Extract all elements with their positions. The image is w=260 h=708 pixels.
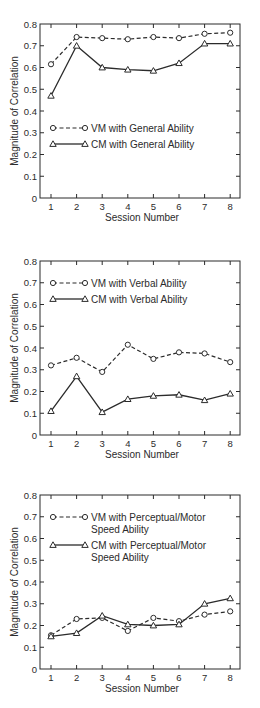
- y-tick-label: 0.1: [24, 642, 37, 653]
- legend-label: CM with General Ability: [91, 139, 194, 150]
- legend-entry: VM with General Ability: [50, 123, 193, 134]
- legend-label: Speed Ability: [91, 524, 149, 535]
- data-point: [227, 595, 233, 601]
- x-tick-label: 6: [176, 672, 181, 683]
- x-tick-label: 7: [202, 201, 207, 212]
- y-tick-label: 0.4: [24, 106, 37, 117]
- y-tick-label: 0.8: [24, 256, 37, 267]
- x-axis-label: Session Number: [105, 449, 180, 460]
- x-tick-label: 5: [151, 438, 156, 449]
- legend-marker: [82, 280, 87, 285]
- data-point: [48, 363, 53, 368]
- data-point: [202, 31, 207, 36]
- x-axis-label: Session Number: [105, 683, 180, 694]
- data-point: [227, 390, 233, 396]
- y-tick-label: 0.7: [24, 511, 37, 522]
- data-point: [99, 613, 105, 619]
- y-tick-label: 0.1: [24, 171, 37, 182]
- data-point: [228, 30, 233, 35]
- data-point: [100, 36, 105, 41]
- legend-marker: [82, 125, 87, 130]
- x-tick-label: 8: [228, 201, 233, 212]
- series-vm: [48, 342, 232, 374]
- data-point: [125, 342, 130, 347]
- data-point: [202, 612, 207, 617]
- y-tick-label: 0: [32, 664, 37, 675]
- data-point: [74, 355, 79, 360]
- x-tick-label: 1: [48, 438, 53, 449]
- x-tick-label: 8: [228, 438, 233, 449]
- y-tick-label: 0.1: [24, 408, 37, 419]
- legend-entry: CM with Perceptual/MotorSpeed Ability: [50, 540, 207, 563]
- series-cm: [48, 40, 234, 98]
- legend-label: CM with Verbal Ability: [91, 294, 187, 305]
- series-line: [51, 376, 230, 412]
- data-point: [202, 351, 207, 356]
- y-tick-label: 0.3: [24, 127, 37, 138]
- x-tick-label: 8: [228, 672, 233, 683]
- data-point: [48, 62, 53, 67]
- x-tick-label: 2: [74, 201, 79, 212]
- data-point: [73, 43, 79, 49]
- y-tick-label: 0: [32, 430, 37, 441]
- data-point: [228, 360, 233, 365]
- y-axis-label: Magnitude of Correlation: [9, 527, 20, 637]
- y-tick-label: 0.5: [24, 555, 37, 566]
- x-tick-label: 1: [48, 201, 53, 212]
- legend-label: VM with General Ability: [91, 123, 194, 134]
- y-tick-label: 0.5: [24, 321, 37, 332]
- y-tick-label: 0.3: [24, 364, 37, 375]
- legend-marker: [50, 125, 55, 130]
- x-axis-label: Session Number: [105, 212, 180, 223]
- data-point: [176, 36, 181, 41]
- x-tick-label: 2: [74, 438, 79, 449]
- y-tick-label: 0.5: [24, 84, 37, 95]
- x-tick-label: 3: [100, 438, 105, 449]
- legend-marker: [82, 514, 87, 519]
- data-point: [125, 628, 130, 633]
- data-point: [176, 350, 181, 355]
- legend-entry: CM with General Ability: [50, 139, 195, 150]
- series-cm: [48, 373, 234, 414]
- x-tick-label: 7: [202, 438, 207, 449]
- x-tick-label: 5: [151, 672, 156, 683]
- legend-entry: CM with Verbal Ability: [50, 294, 187, 305]
- x-tick-label: 4: [125, 201, 130, 212]
- x-tick-label: 4: [125, 672, 130, 683]
- data-point: [151, 34, 156, 39]
- y-tick-label: 0.4: [24, 577, 37, 588]
- plot-frame: [40, 24, 240, 198]
- y-tick-label: 0.6: [24, 533, 37, 544]
- x-tick-label: 3: [100, 672, 105, 683]
- x-tick-label: 6: [176, 201, 181, 212]
- data-point: [151, 356, 156, 361]
- y-tick-label: 0.6: [24, 62, 37, 73]
- data-point: [228, 609, 233, 614]
- y-tick-label: 0.8: [24, 490, 37, 501]
- x-tick-label: 3: [100, 201, 105, 212]
- chart-3: 00.10.20.30.40.50.60.70.812345678Session…: [9, 490, 240, 695]
- y-tick-label: 0.2: [24, 386, 37, 397]
- y-tick-label: 0.2: [24, 620, 37, 631]
- data-point: [100, 369, 105, 374]
- y-tick-label: 0.3: [24, 598, 37, 609]
- y-axis-label: Magnitude of Correlation: [9, 293, 20, 403]
- legend-entry: VM with Verbal Ability: [50, 278, 186, 289]
- legend-entry: VM with Perceptual/MotorSpeed Ability: [50, 512, 206, 535]
- data-point: [48, 93, 54, 99]
- legend-label: VM with Verbal Ability: [91, 278, 187, 289]
- chart-2: 00.10.20.30.40.50.60.70.812345678Session…: [9, 256, 240, 461]
- series-line: [51, 44, 230, 96]
- data-point: [73, 373, 79, 379]
- y-tick-label: 0.7: [24, 277, 37, 288]
- y-tick-label: 0: [32, 193, 37, 204]
- legend-label: VM with Perceptual/Motor: [91, 512, 206, 523]
- data-point: [74, 616, 79, 621]
- x-tick-label: 6: [176, 438, 181, 449]
- y-tick-label: 0.2: [24, 149, 37, 160]
- legend-label: Speed Ability: [91, 552, 149, 563]
- y-tick-label: 0.4: [24, 343, 37, 354]
- x-tick-label: 7: [202, 672, 207, 683]
- chart-1: 00.10.20.30.40.50.60.70.812345678Session…: [9, 19, 240, 224]
- y-tick-label: 0.7: [24, 40, 37, 51]
